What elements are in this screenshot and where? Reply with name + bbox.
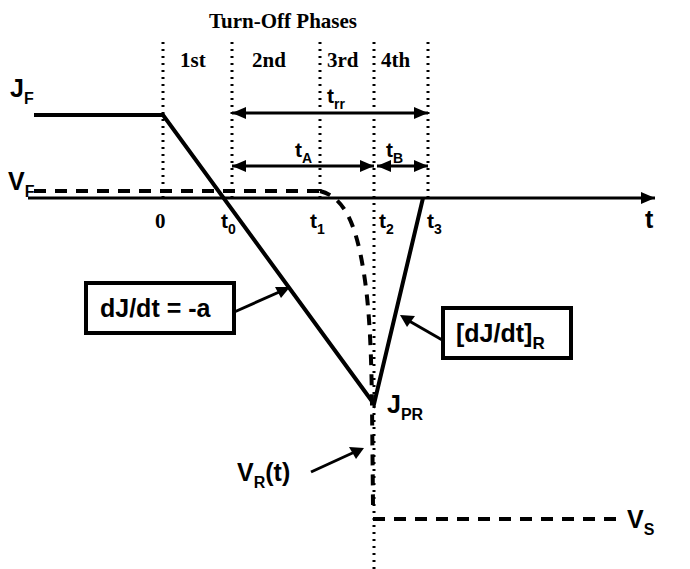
peak-reverse-current-sub: PR — [401, 406, 424, 423]
reverse-voltage-label: VR(t) — [237, 458, 290, 491]
tick-t0-sub: 0 — [228, 221, 236, 237]
phase-label-1st: 1st — [180, 48, 206, 72]
peak-reverse-current-main: J — [387, 390, 401, 418]
supply-voltage-label: VS — [627, 505, 655, 538]
reverse-slope-leader-arrowhead — [400, 315, 415, 327]
tick-label-t3: t3 — [427, 209, 442, 237]
forward-slope-leader — [232, 289, 286, 313]
trr-sub: rr — [334, 96, 345, 112]
reverse-voltage-tail: (t) — [265, 458, 290, 486]
tb-sub: B — [393, 150, 403, 166]
tick-label-zero: 0 — [155, 209, 166, 233]
reverse-voltage-curve — [320, 191, 373, 505]
tick-t1-main: t — [310, 209, 317, 232]
ta-sub: A — [302, 150, 312, 166]
phase-label-3rd: 3rd — [327, 48, 359, 72]
tb-arrowhead-left — [377, 160, 391, 172]
reverse-slope-main: [dJ/dt] — [456, 319, 532, 347]
tick-t2-main: t — [379, 209, 386, 232]
reverse-slope-sub: R — [532, 334, 544, 353]
time-axis-label: t — [645, 205, 654, 233]
forward-current-main: J — [10, 74, 24, 102]
trr-label: trr — [327, 84, 345, 112]
forward-current-label: JF — [10, 74, 34, 107]
ta-label: tA — [295, 138, 312, 166]
peak-reverse-current-label: JPR — [387, 390, 424, 423]
ta-main: t — [295, 138, 302, 161]
forward-slope-label: dJ/dt = -a — [100, 294, 212, 322]
waveform-diagram: dJ/dt = -a [dJ/dt]R Turn-Off Phases 1st … — [0, 0, 690, 569]
diode-turnoff-waveform-figure: dJ/dt = -a [dJ/dt]R Turn-Off Phases 1st … — [0, 0, 690, 569]
tick-t0-main: t — [221, 209, 228, 232]
phase-label-2nd: 2nd — [252, 48, 286, 72]
tick-label-t1: t1 — [310, 209, 325, 237]
ta-arrowhead-left — [232, 160, 246, 172]
current-waveform — [34, 115, 423, 404]
phase-label-4th: 4th — [381, 48, 410, 72]
forward-voltage-main: V — [8, 167, 25, 195]
time-axis-arrowhead — [641, 192, 655, 204]
reverse-voltage-main: V — [237, 458, 254, 486]
forward-voltage-sub: F — [25, 183, 35, 200]
trr-arrowhead-right — [414, 107, 428, 119]
trr-main: t — [327, 84, 334, 107]
forward-voltage-label: VF — [8, 167, 35, 200]
tick-t1-sub: 1 — [317, 221, 325, 237]
forward-current-sub: F — [24, 90, 34, 107]
tb-arrowhead-right — [414, 160, 428, 172]
tick-label-t2: t2 — [379, 209, 394, 237]
figure-title: Turn-Off Phases — [209, 9, 357, 33]
supply-voltage-main: V — [627, 505, 644, 533]
tick-t3-main: t — [427, 209, 434, 232]
supply-voltage-sub: S — [644, 521, 655, 538]
ta-arrowhead-right — [360, 160, 374, 172]
reverse-voltage-leader — [311, 450, 359, 472]
tick-t3-sub: 3 — [434, 221, 442, 237]
tick-t2-sub: 2 — [386, 221, 394, 237]
reverse-voltage-sub: R — [254, 474, 266, 491]
trr-arrowhead-left — [232, 107, 246, 119]
tb-main: t — [386, 138, 393, 161]
